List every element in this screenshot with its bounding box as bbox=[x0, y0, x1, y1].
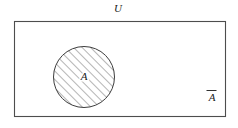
venn-diagram-canvas: U U A A A A bbox=[0, 0, 238, 128]
set-a-label: A bbox=[80, 70, 88, 82]
venn-diagram-figure: U U A A A A bbox=[0, 0, 238, 128]
complement-a-label: A bbox=[208, 91, 216, 103]
universal-set-label: U bbox=[114, 2, 123, 14]
universal-set-rectangle bbox=[15, 22, 226, 117]
